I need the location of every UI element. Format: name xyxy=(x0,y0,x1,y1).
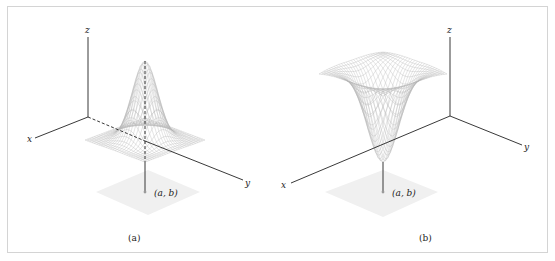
point-label-b: (a, b) xyxy=(392,188,416,198)
caption-b: (b) xyxy=(419,233,432,243)
x-axis-label-b: x xyxy=(281,180,286,190)
x-axis-a xyxy=(35,117,88,138)
point-ab-marker-a xyxy=(144,191,147,194)
shadow-region-a xyxy=(96,170,200,215)
y-axis-label-b: y xyxy=(523,142,530,152)
y-axis-label-a: y xyxy=(244,178,251,188)
caption-a: (a) xyxy=(128,233,140,243)
x-axis-label-a: x xyxy=(27,134,32,144)
z-axis-label-a: z xyxy=(84,25,90,35)
point-label-a: (a, b) xyxy=(154,188,178,198)
z-axis-label-b: z xyxy=(446,25,452,35)
trough-surface-mesh xyxy=(319,52,447,162)
panel-b: z x y (a, b) (b) xyxy=(281,25,530,243)
panel-a: z x y (a, b) (a) xyxy=(27,25,251,243)
shadow-region-b xyxy=(325,170,438,217)
point-ab-marker-b xyxy=(382,191,385,194)
figure-canvas: z x y (a, b) (a) z x y (a, b) (b) xyxy=(0,0,555,261)
x-axis-b xyxy=(291,116,450,183)
y-axis-a xyxy=(145,141,243,180)
y-axis-b xyxy=(450,116,522,145)
